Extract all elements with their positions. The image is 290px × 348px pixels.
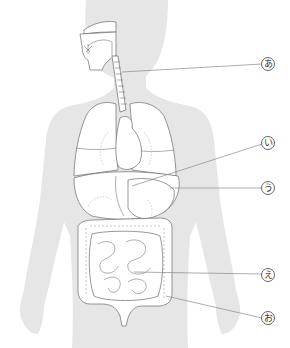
label-a-text: あ (264, 59, 273, 69)
label-o: お (262, 312, 275, 325)
label-o-text: お (264, 313, 273, 323)
label-e-text: え (264, 270, 273, 280)
label-a: あ (262, 58, 275, 71)
label-i-text: い (264, 138, 273, 148)
label-u: う (262, 182, 275, 195)
small-intestine (89, 231, 163, 300)
digestive-system-diagram: あ い う え お (0, 0, 290, 348)
label-i: い (262, 137, 275, 150)
label-e: え (262, 269, 275, 282)
label-u-text: う (264, 183, 273, 193)
